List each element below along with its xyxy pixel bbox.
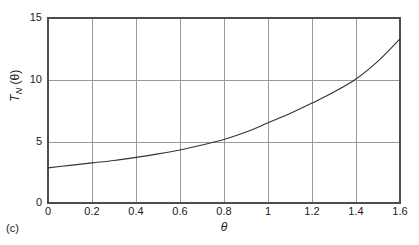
y-axis-label: TN (θ) — [8, 54, 24, 118]
y-tick-label: 10 — [6, 73, 42, 85]
x-tick-label: 0.4 — [116, 205, 156, 217]
x-axis-label: θ — [48, 220, 400, 234]
x-tick-label: 0.8 — [204, 205, 244, 217]
y-tick-label: 0 — [6, 196, 42, 208]
panel-label: (c) — [6, 222, 19, 234]
y-tick-label: 5 — [6, 135, 42, 147]
x-tick-label: 1.6 — [380, 205, 419, 217]
x-tick-label: 1.2 — [292, 205, 332, 217]
x-tick-label: 1 — [248, 205, 288, 217]
x-tick-label: 1.4 — [336, 205, 376, 217]
y-axis-label-subscript: N — [14, 88, 24, 95]
grid-lines-vertical — [92, 18, 356, 203]
y-axis-label-main: T — [8, 94, 22, 101]
x-tick-label: 0.6 — [160, 205, 200, 217]
figure-panel-c: TN (θ) θ (c) 0 0.2 0.4 0.6 0.8 1 1.2 1.4… — [0, 0, 419, 245]
x-tick-label: 0.2 — [72, 205, 112, 217]
y-tick-label: 15 — [6, 11, 42, 23]
